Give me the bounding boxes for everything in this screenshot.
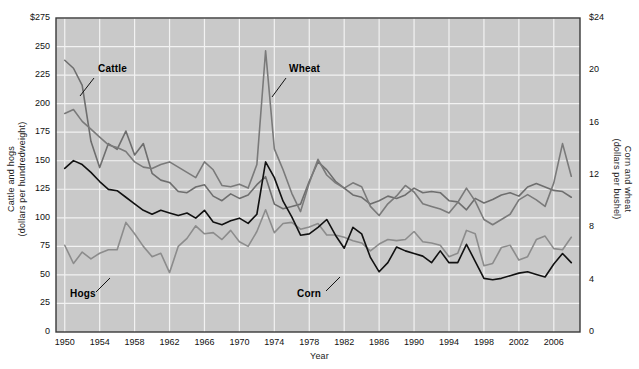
left-tick-275: $275 bbox=[4, 12, 50, 22]
right-tick-24: $24 bbox=[589, 12, 629, 22]
x-axis-title: Year bbox=[0, 351, 639, 362]
left-tick-75: 75 bbox=[4, 240, 50, 250]
left-tick-200: 200 bbox=[4, 98, 50, 108]
right-tick-20: 20 bbox=[589, 64, 629, 74]
left-tick-50: 50 bbox=[4, 269, 50, 279]
right-tick-8: 8 bbox=[589, 221, 629, 231]
left-tick-100: 100 bbox=[4, 212, 50, 222]
left-tick-250: 250 bbox=[4, 41, 50, 51]
right-tick-16: 16 bbox=[589, 117, 629, 127]
series-label-hogs: Hogs bbox=[70, 288, 96, 299]
left-axis-title: Cattle and hogs (dollars per hundredweig… bbox=[6, 99, 28, 259]
left-tick-150: 150 bbox=[4, 155, 50, 165]
chart-plot-area bbox=[0, 0, 639, 369]
left-tick-225: 225 bbox=[4, 69, 50, 79]
right-axis-title-line1: Corn and wheat bbox=[623, 146, 633, 212]
series-label-cattle: Cattle bbox=[98, 63, 127, 74]
series-label-corn: Corn bbox=[297, 288, 321, 299]
right-tick-4: 4 bbox=[589, 274, 629, 284]
series-label-wheat: Wheat bbox=[289, 63, 320, 74]
left-tick-125: 125 bbox=[4, 183, 50, 193]
x-tick-2006: 2006 bbox=[534, 337, 574, 347]
left-tick-175: 175 bbox=[4, 126, 50, 136]
right-tick-12: 12 bbox=[589, 169, 629, 179]
left-tick-25: 25 bbox=[4, 297, 50, 307]
left-tick-0: 0 bbox=[4, 326, 50, 336]
price-trends-chart: Cattle and hogs (dollars per hundredweig… bbox=[0, 0, 639, 369]
right-tick-0: 0 bbox=[589, 326, 629, 336]
